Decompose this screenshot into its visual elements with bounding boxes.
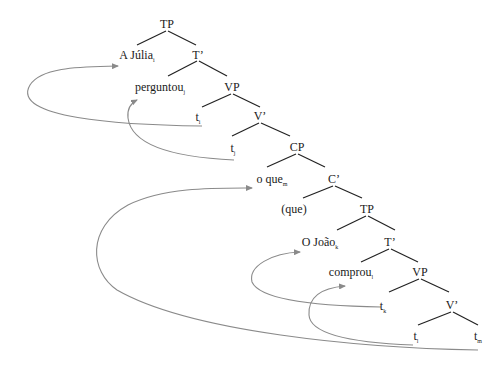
node-wh-o-que: o quem (257, 172, 288, 187)
node-cbar: C’ (328, 172, 340, 186)
node-tbar2: T’ (384, 235, 395, 249)
arrow-ti (28, 66, 202, 126)
tree-edges (137, 31, 478, 325)
node-trace-j: tj (230, 141, 235, 156)
node-vp1: VP (224, 80, 240, 94)
node-vbar1: V’ (254, 109, 267, 123)
node-vp2: VP (412, 265, 428, 279)
syntax-tree: TP A Júliai T’ perguntouj VP ti V’ tj CP… (0, 0, 503, 379)
node-verb-perguntou: perguntouj (135, 80, 185, 95)
arrow-tl (309, 286, 413, 345)
node-comp-que: (que) (281, 202, 306, 216)
node-tp1: TP (160, 17, 174, 31)
node-subject-a-julia: A Júliai (119, 48, 155, 63)
node-subject-o-joao: O Joãok (302, 235, 339, 250)
arrow-tk (252, 252, 381, 307)
node-verb-comprou: comproul (329, 265, 374, 280)
arrow-tj (128, 100, 234, 160)
node-cp: CP (290, 140, 305, 154)
node-trace-k: tk (380, 299, 386, 314)
tree-nodes: TP A Júliai T’ perguntouj VP ti V’ tj CP… (119, 17, 482, 344)
node-vbar2: V’ (446, 298, 459, 312)
node-trace-i: ti (195, 110, 200, 125)
node-trace-m: tm (474, 329, 482, 344)
node-tbar1: T’ (192, 48, 203, 62)
node-tp2: TP (360, 202, 374, 216)
node-trace-l: tl (413, 329, 418, 344)
